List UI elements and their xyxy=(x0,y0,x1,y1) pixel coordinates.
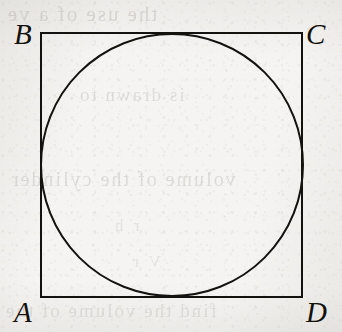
vertex-label-a: A xyxy=(14,298,32,327)
figure-ink-group xyxy=(41,33,303,297)
inscribed-circle-shape xyxy=(41,34,303,296)
vertex-label-d: D xyxy=(306,298,327,327)
geometry-figure-svg xyxy=(0,0,342,332)
vertex-label-c: C xyxy=(306,20,325,49)
vertex-label-b: B xyxy=(14,20,32,49)
figure-page: the use of a ve is drawn to volume of th… xyxy=(0,0,342,332)
